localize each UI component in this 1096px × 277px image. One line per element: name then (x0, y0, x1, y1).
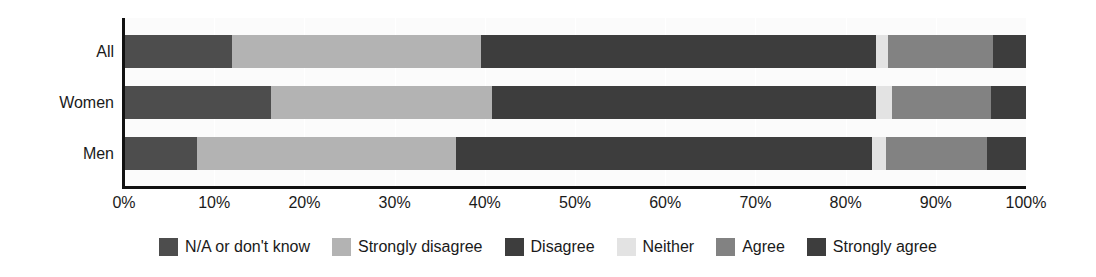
plot-area (124, 18, 1026, 188)
legend-label: Neither (643, 238, 695, 256)
legend-item[interactable]: Strongly disagree (332, 238, 483, 256)
legend-label: Disagree (531, 238, 595, 256)
x-tick-label: 50% (559, 194, 591, 212)
legend: N/A or don't knowStrongly disagreeDisagr… (0, 238, 1096, 256)
legend-label: Strongly agree (833, 238, 937, 256)
bar-row (124, 86, 1026, 119)
x-tick-label: 80% (830, 194, 862, 212)
category-axis-labels: All Women Men (0, 18, 114, 188)
bar-row (124, 137, 1026, 170)
bar-segment (271, 86, 492, 119)
bar-segment (124, 35, 232, 68)
legend-swatch-icon (159, 238, 178, 256)
legend-item[interactable]: N/A or don't know (159, 238, 310, 256)
category-label-men: Men (0, 145, 114, 163)
y-axis-line (122, 18, 125, 188)
legend-item[interactable]: Disagree (505, 238, 595, 256)
stacked-bar-chart: All Women Men 0%10%20%30%40%50%60%70%80%… (0, 0, 1096, 277)
legend-swatch-icon (617, 238, 636, 256)
bar-segment (124, 137, 197, 170)
legend-swatch-icon (807, 238, 826, 256)
legend-item[interactable]: Strongly agree (807, 238, 937, 256)
x-tick-label: 70% (739, 194, 771, 212)
bar-segment (456, 137, 872, 170)
bar-segment (993, 35, 1026, 68)
bar-segment (481, 35, 876, 68)
bar-segment (888, 35, 993, 68)
x-tick-label: 0% (112, 194, 135, 212)
bar-segment (232, 35, 481, 68)
bar-segment (892, 86, 991, 119)
bar-segment (492, 86, 876, 119)
gridline-100 (1026, 18, 1027, 188)
bar-row (124, 35, 1026, 68)
category-label-women: Women (0, 94, 114, 112)
bar-segment (197, 137, 456, 170)
legend-label: N/A or don't know (185, 238, 310, 256)
bar-segment (886, 137, 987, 170)
category-label-all: All (0, 43, 114, 61)
legend-label: Agree (742, 238, 785, 256)
legend-item[interactable]: Neither (617, 238, 695, 256)
legend-swatch-icon (505, 238, 524, 256)
x-tick-label: 90% (920, 194, 952, 212)
x-tick-label: 100% (1006, 194, 1047, 212)
bar-segment (872, 137, 886, 170)
legend-swatch-icon (332, 238, 351, 256)
x-tick-label: 30% (379, 194, 411, 212)
legend-item[interactable]: Agree (716, 238, 785, 256)
legend-label: Strongly disagree (358, 238, 483, 256)
x-axis-tick-labels: 0%10%20%30%40%50%60%70%80%90%100% (124, 194, 1026, 218)
bar-segment (987, 137, 1026, 170)
bar-segment (991, 86, 1026, 119)
x-tick-label: 40% (469, 194, 501, 212)
legend-swatch-icon (716, 238, 735, 256)
x-tick-label: 10% (198, 194, 230, 212)
bar-segment (876, 35, 888, 68)
bar-segment (876, 86, 891, 119)
x-axis-line (122, 186, 1026, 189)
bar-segment (124, 86, 271, 119)
x-tick-label: 60% (649, 194, 681, 212)
x-tick-label: 20% (288, 194, 320, 212)
